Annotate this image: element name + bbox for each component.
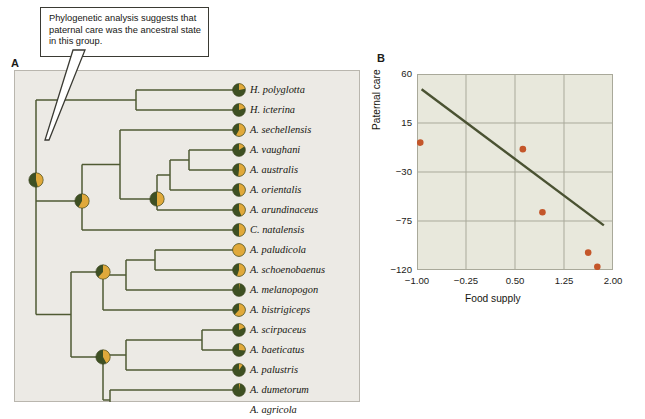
tip-pie-11	[233, 304, 246, 317]
tip-pie-12	[233, 324, 246, 337]
tip-label-14: A. palustris	[250, 365, 298, 375]
tip-pie-8	[233, 244, 246, 257]
scatter-plot-svg	[417, 74, 613, 270]
tip-pie-3	[233, 144, 246, 157]
data-point-1	[520, 146, 527, 153]
y-tick-1: 15	[378, 117, 412, 128]
tip-label-10: A. melanopogon	[250, 285, 318, 295]
tip-label-16: A. agricola	[250, 405, 297, 415]
tip-label-6: A. arundinaceus	[250, 205, 318, 215]
tip-pie-5	[233, 184, 246, 197]
tip-pie-4	[233, 164, 246, 177]
data-point-0	[417, 139, 424, 146]
tip-pie-7	[233, 224, 246, 237]
tip-label-11: A. bistrigiceps	[250, 305, 310, 315]
tip-pie-6	[233, 204, 246, 217]
panel-b-label: B	[377, 52, 385, 64]
tip-pie-10	[233, 284, 246, 297]
tip-label-4: A. australis	[250, 165, 298, 175]
x-tick-0: −1.00	[397, 275, 437, 286]
callout-text: Phylogenetic analysis suggests that pate…	[49, 13, 201, 46]
tip-pie-9	[233, 264, 246, 277]
y-tick-4: −120	[378, 264, 412, 275]
tip-label-13: A. baeticatus	[250, 345, 304, 355]
tip-label-5: A. orientalis	[250, 185, 301, 195]
y-tick-2: −30	[378, 166, 412, 177]
tip-pie-13	[233, 344, 246, 357]
y-tick-0: 60	[378, 68, 412, 79]
tip-label-2: A. sechellensis	[250, 125, 311, 135]
tip-label-0: H. polyglotta	[250, 85, 305, 95]
node-pie-root	[29, 173, 43, 187]
tip-label-8: A. paludicola	[250, 245, 306, 255]
data-point-3	[585, 249, 592, 256]
tip-label-12: A. scirpaceus	[250, 325, 306, 335]
node-pie-nodeC	[150, 192, 164, 206]
tip-pie-14	[233, 364, 246, 377]
data-point-2	[539, 209, 546, 216]
figure-root: A H. polyglottaH. icterinaA. sechellensi…	[0, 0, 645, 419]
x-tick-1: −0.25	[446, 275, 486, 286]
tip-label-3: A. vaughani	[250, 145, 300, 155]
tip-pie-2	[233, 124, 246, 137]
node-pie-nodeE	[96, 350, 110, 364]
tip-label-1: H. icterina	[250, 105, 295, 115]
data-point-4	[594, 263, 601, 270]
y-axis-label: Paternal care	[371, 69, 382, 130]
node-pie-nodeB	[75, 194, 89, 208]
x-tick-2: 0.50	[495, 275, 535, 286]
x-tick-3: 1.25	[544, 275, 584, 286]
panel-a-label: A	[11, 57, 19, 69]
tip-label-9: A. schoenobaenus	[250, 265, 325, 275]
tip-pie-15	[233, 384, 246, 397]
tip-label-7: C. natalensis	[250, 225, 304, 235]
tip-pie-0	[233, 84, 246, 97]
x-axis-label: Food supply	[465, 293, 521, 304]
trend-line	[422, 89, 604, 225]
node-pie-nodeD	[96, 265, 110, 279]
x-tick-4: 2.00	[593, 275, 633, 286]
callout-pointer-icon	[25, 48, 95, 148]
tip-pie-1	[233, 104, 246, 117]
y-tick-3: −75	[378, 215, 412, 226]
tip-label-15: A. dumetorum	[250, 385, 309, 395]
